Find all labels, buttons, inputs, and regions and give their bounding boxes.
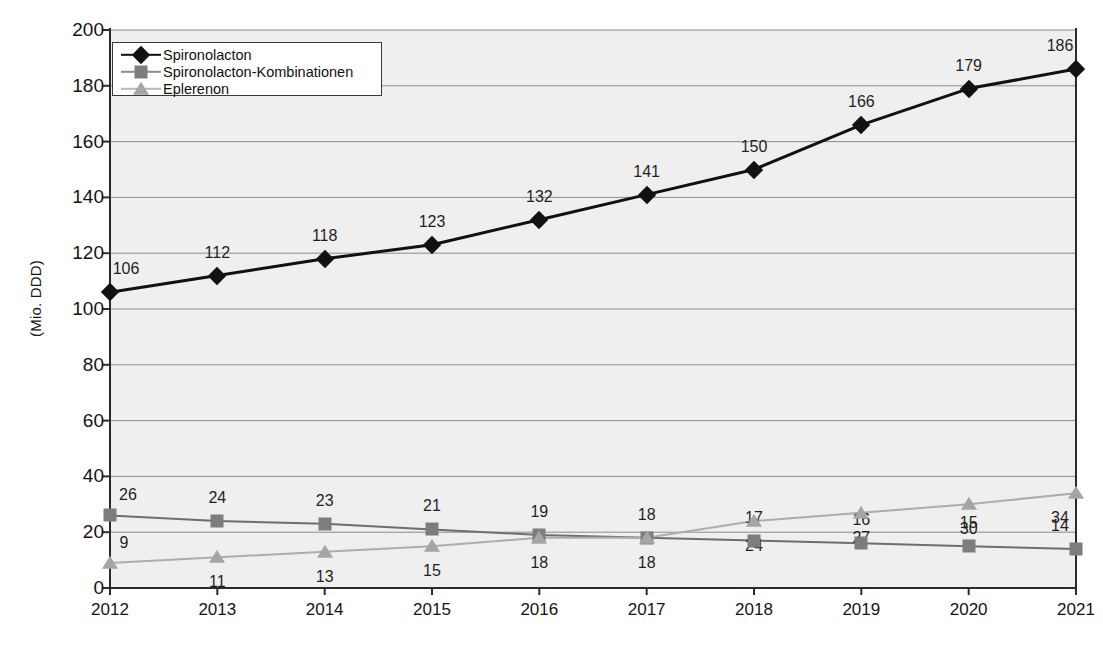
data-point-marker [424, 539, 440, 552]
data-value-label: 132 [526, 188, 553, 206]
y-axis-title: (Mio. DDD) [27, 229, 44, 369]
legend-label-0: Spironolacton [163, 47, 252, 63]
data-point-marker [853, 506, 869, 519]
data-value-label: 18 [638, 506, 656, 524]
data-point-marker [962, 540, 975, 553]
data-value-label: 123 [419, 213, 446, 231]
data-value-label: 11 [209, 573, 226, 591]
legend-item-eplerenon: Eplerenon [119, 81, 381, 97]
data-value-label: 179 [955, 57, 982, 75]
plot-canvas [0, 0, 1103, 648]
legend-marker-diamond-icon [119, 47, 163, 63]
data-point-marker [855, 537, 868, 550]
legend-marker-triangle-icon [119, 81, 163, 97]
data-value-label: 21 [423, 497, 441, 515]
data-value-label: 24 [208, 489, 226, 507]
data-value-label: 186 [1047, 37, 1074, 55]
data-point-marker [639, 531, 655, 544]
data-point-marker [531, 531, 547, 544]
y-tick-label: 80 [58, 354, 104, 376]
data-point-marker [1070, 542, 1083, 555]
x-tick-label: 2021 [1057, 600, 1095, 620]
y-tick-label: 180 [58, 75, 104, 97]
y-tick-label: 60 [58, 410, 104, 432]
data-value-label: 30 [960, 520, 978, 538]
data-point-marker [211, 515, 224, 528]
x-tick-label: 2017 [628, 600, 666, 620]
data-point-marker [209, 550, 225, 563]
data-point-marker [746, 514, 762, 527]
y-tick-label: 40 [58, 465, 104, 487]
y-tick-label: 0 [58, 577, 104, 599]
data-point-marker [318, 517, 331, 530]
data-point-marker [1068, 486, 1084, 499]
y-tick-label: 20 [58, 521, 104, 543]
x-tick-label: 2012 [91, 600, 129, 620]
y-tick-label: 120 [58, 242, 104, 264]
legend-item-spironolacton: Spironolacton [119, 47, 381, 63]
data-value-label: 166 [848, 93, 875, 111]
data-point-marker [317, 545, 333, 558]
data-value-label: 18 [530, 554, 548, 572]
data-value-label: 26 [119, 486, 137, 504]
chart-legend: Spironolacton Spironolacton-Kombinatione… [112, 42, 382, 96]
y-tick-label: 200 [58, 19, 104, 41]
data-value-label: 23 [316, 492, 334, 510]
data-value-label: 106 [113, 260, 140, 278]
data-value-label: 18 [638, 554, 656, 572]
x-tick-label: 2015 [413, 600, 451, 620]
data-value-label: 9 [120, 534, 129, 552]
x-tick-label: 2013 [198, 600, 236, 620]
x-tick-label: 2018 [735, 600, 773, 620]
data-point-marker [104, 509, 117, 522]
x-tick-label: 2016 [520, 600, 558, 620]
y-tick-label: 100 [58, 298, 104, 320]
data-value-label: 34 [1051, 509, 1069, 527]
data-point-marker [102, 556, 118, 569]
legend-item-spironolacton-kombinationen: Spironolacton-Kombinationen [119, 64, 381, 80]
y-tick-label: 160 [58, 131, 104, 153]
data-value-label: 150 [741, 138, 768, 156]
data-value-label: 19 [530, 503, 548, 521]
data-point-marker [748, 534, 761, 547]
y-tick-label: 140 [58, 186, 104, 208]
data-value-label: 13 [316, 568, 334, 586]
x-tick-label: 2020 [950, 600, 988, 620]
y-axis-ticks: 020406080100120140160180200 [58, 0, 104, 648]
legend-label-1: Spironolacton-Kombinationen [163, 64, 353, 80]
data-value-label: 15 [423, 562, 441, 580]
legend-label-2: Eplerenon [163, 81, 229, 97]
data-value-label: 112 [205, 244, 231, 262]
data-point-marker [961, 497, 977, 510]
data-point-marker [426, 523, 439, 536]
legend-marker-square-icon [119, 64, 163, 80]
chart-container: (Mio. DDD) 020406080100120140160180200 2… [0, 0, 1103, 648]
x-tick-label: 2019 [842, 600, 880, 620]
x-tick-label: 2014 [306, 600, 344, 620]
data-value-label: 141 [633, 163, 660, 181]
data-value-label: 118 [312, 227, 338, 245]
